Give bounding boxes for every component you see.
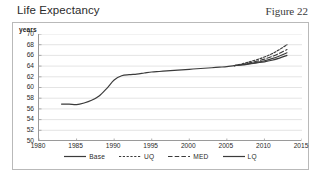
plot-area bbox=[38, 34, 301, 141]
legend-swatch-uq bbox=[119, 153, 141, 160]
series-line-med bbox=[234, 50, 287, 66]
x-tick-label: 1985 bbox=[62, 142, 90, 149]
legend-swatch-base bbox=[64, 153, 86, 160]
legend-item-base[interactable]: Base bbox=[64, 153, 105, 160]
x-tick-label: 2005 bbox=[212, 142, 240, 149]
y-tick-label: 52 bbox=[16, 127, 34, 133]
y-tick-label: 58 bbox=[16, 95, 34, 101]
screenshot-root: Life Expectancy Figure 22 years 50525456… bbox=[0, 0, 320, 186]
x-tick-label: 2015 bbox=[287, 142, 315, 149]
legend-label: MED bbox=[193, 153, 208, 160]
legend-item-uq[interactable]: UQ bbox=[119, 153, 154, 160]
y-tick-label: 68 bbox=[16, 42, 34, 48]
y-tick-label: 60 bbox=[16, 84, 34, 90]
x-tick-label: 1990 bbox=[99, 142, 127, 149]
y-tick-label: 70 bbox=[16, 31, 34, 37]
y-tick-label: 54 bbox=[16, 116, 34, 122]
chart-panel: years 5052545658606264666870 19801985199… bbox=[12, 22, 309, 170]
y-tick-label: 62 bbox=[16, 74, 34, 80]
x-tick-label: 2010 bbox=[249, 142, 277, 149]
y-tick-label: 64 bbox=[16, 63, 34, 69]
legend-swatch-lq bbox=[223, 153, 245, 160]
plot-wrapper: years 5052545658606264666870 19801985199… bbox=[13, 23, 308, 169]
series-canvas bbox=[39, 34, 302, 141]
legend-item-med[interactable]: MED bbox=[168, 153, 208, 160]
legend-label: LQ bbox=[248, 153, 257, 160]
legend-label: UQ bbox=[144, 153, 154, 160]
legend-item-lq[interactable]: LQ bbox=[223, 153, 257, 160]
legend-swatch-med bbox=[168, 153, 190, 160]
x-tick-label: 1980 bbox=[24, 142, 52, 149]
chart-legend: BaseUQMEDLQ bbox=[13, 153, 308, 160]
x-tick-label: 2000 bbox=[174, 142, 202, 149]
x-tick-label: 1995 bbox=[137, 142, 165, 149]
figure-caption: Figure 22 bbox=[266, 5, 308, 17]
legend-label: Base bbox=[89, 153, 105, 160]
page-title: Life Expectancy bbox=[17, 4, 100, 16]
y-tick-label: 66 bbox=[16, 52, 34, 58]
y-tick-label: 56 bbox=[16, 106, 34, 112]
